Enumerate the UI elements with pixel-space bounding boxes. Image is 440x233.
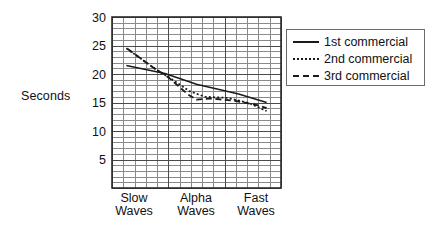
- x-tick-label-alpha-waves-line2: Waves: [167, 205, 225, 218]
- x-tick-label-alpha-waves-line1: Alpha: [167, 192, 225, 205]
- legend-item-1st-commercial: 1st commercial: [293, 34, 424, 50]
- grid-lines-major: [112, 17, 282, 189]
- legend-swatch-dashed-line-icon: [293, 71, 319, 81]
- chart-figure: Seconds 30 25 20 15 10 5 Slow Waves Alph…: [0, 0, 440, 233]
- grid-lines-minor: [112, 17, 281, 188]
- plot-border: [112, 17, 281, 188]
- x-tick-label-slow-waves-line1: Slow: [105, 192, 163, 205]
- legend-label-1st-commercial: 1st commercial: [324, 35, 408, 49]
- x-tick-label-fast-waves-line2: Waves: [227, 205, 285, 218]
- legend-item-2nd-commercial: 2nd commercial: [293, 51, 424, 67]
- chart-legend: 1st commercial 2nd commercial 3rd commer…: [286, 29, 425, 86]
- legend-label-3rd-commercial: 3rd commercial: [324, 69, 409, 83]
- legend-label-2nd-commercial: 2nd commercial: [324, 52, 412, 66]
- x-tick-label-fast-waves: Fast Waves: [227, 192, 285, 217]
- legend-swatch-dotted-line-icon: [293, 54, 319, 64]
- x-tick-label-slow-waves: Slow Waves: [105, 192, 163, 217]
- x-tick-label-fast-waves-line1: Fast: [227, 192, 285, 205]
- x-tick-label-slow-waves-line2: Waves: [105, 205, 163, 218]
- x-tick-label-alpha-waves: Alpha Waves: [167, 192, 225, 217]
- legend-item-3rd-commercial: 3rd commercial: [293, 68, 424, 84]
- legend-swatch-solid-line-icon: [293, 37, 319, 47]
- series-line-1st-commercial: [126, 65, 266, 102]
